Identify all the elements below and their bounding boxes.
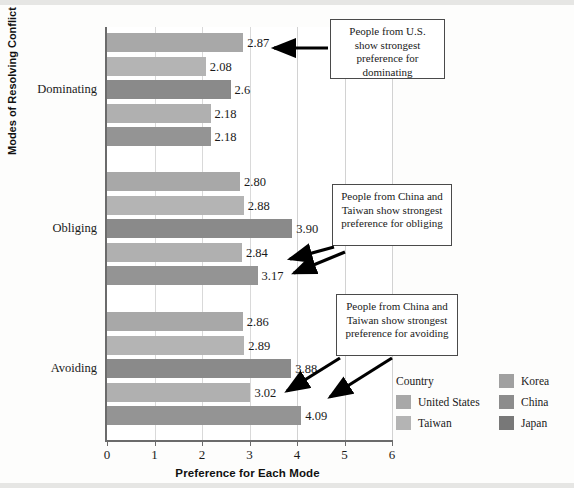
- legend-label: China: [521, 396, 548, 408]
- bar-value-label: 2.18: [215, 128, 237, 147]
- bar: [107, 243, 242, 262]
- legend: Country United StatesTaiwan KoreaChinaJa…: [396, 375, 566, 437]
- legend-item-taiwan[interactable]: Taiwan: [396, 416, 452, 430]
- bar: [107, 383, 250, 402]
- category-label-avoiding: Avoiding: [0, 361, 97, 376]
- tick-6: [392, 440, 393, 446]
- bar-value-label: 3.17: [262, 267, 284, 286]
- tick-label-4: 4: [294, 447, 301, 463]
- tick-3: [250, 440, 251, 446]
- legend-swatch-taiwan: [396, 416, 411, 430]
- chart-page: Modes of Resolving Conflict 0123456 Domi…: [0, 0, 574, 488]
- category-label-obliging: Obliging: [0, 221, 97, 236]
- legend-item-japan[interactable]: Japan: [499, 416, 547, 430]
- tick-2: [202, 440, 203, 446]
- tick-5: [345, 440, 346, 446]
- bar: [107, 172, 240, 191]
- tick-1: [155, 440, 156, 446]
- annotation-avoiding: People from China and Taiwan show strong…: [336, 294, 458, 356]
- bar-value-label: 2.86: [247, 313, 269, 332]
- annotation-dominating: People from U.S. show strongest preferen…: [330, 19, 445, 79]
- category-label-dominating: Dominating: [0, 82, 97, 97]
- tick-label-0: 0: [104, 447, 111, 463]
- legend-swatch-korea: [499, 374, 514, 388]
- bar: [107, 312, 243, 331]
- bar: [107, 336, 244, 355]
- legend-label: Taiwan: [418, 417, 452, 429]
- bar-value-label: 2.08: [210, 58, 232, 77]
- legend-label: United States: [418, 396, 480, 408]
- bar-value-label: 3.02: [254, 384, 276, 403]
- bar-value-label: 2.87: [247, 34, 269, 53]
- tick-0: [107, 440, 108, 446]
- tick-label-6: 6: [389, 447, 396, 463]
- bar-value-label: 2.89: [248, 337, 270, 356]
- bar: [107, 266, 258, 285]
- bar-value-label: 3.90: [296, 220, 318, 239]
- bar-value-label: 3.88: [295, 360, 317, 379]
- legend-title: Country: [396, 375, 434, 387]
- legend-item-korea[interactable]: Korea: [499, 374, 549, 388]
- bar-value-label: 2.84: [246, 244, 268, 263]
- legend-item-united-states[interactable]: United States: [396, 395, 480, 409]
- legend-swatch-china: [499, 395, 514, 409]
- bar-value-label: 4.09: [305, 407, 327, 426]
- bar: [107, 127, 211, 146]
- legend-swatch-japan: [499, 416, 514, 430]
- bar: [107, 359, 291, 378]
- x-axis-title: Preference for Each Mode: [105, 467, 390, 479]
- bar: [107, 57, 206, 76]
- tick-4: [297, 440, 298, 446]
- bar: [107, 406, 301, 425]
- bar-value-label: 2.88: [248, 197, 270, 216]
- legend-label: Japan: [521, 417, 547, 429]
- annotation-obliging: People from China and Taiwan show strong…: [332, 184, 452, 246]
- legend-item-china[interactable]: China: [499, 395, 548, 409]
- tick-label-1: 1: [151, 447, 158, 463]
- legend-swatch-united-states: [396, 395, 411, 409]
- legend-label: Korea: [521, 375, 549, 387]
- bar-value-label: 2.18: [215, 105, 237, 124]
- bar: [107, 196, 244, 215]
- bar-value-label: 2.6: [235, 81, 251, 100]
- bar: [107, 219, 292, 238]
- bar: [107, 104, 211, 123]
- bar-value-label: 2.80: [244, 173, 266, 192]
- bar: [107, 80, 231, 99]
- tick-label-2: 2: [199, 447, 206, 463]
- tick-label-3: 3: [246, 447, 253, 463]
- bar: [107, 33, 243, 52]
- tick-label-5: 5: [341, 447, 348, 463]
- y-axis-title: Modes of Resolving Conflict: [6, 141, 18, 155]
